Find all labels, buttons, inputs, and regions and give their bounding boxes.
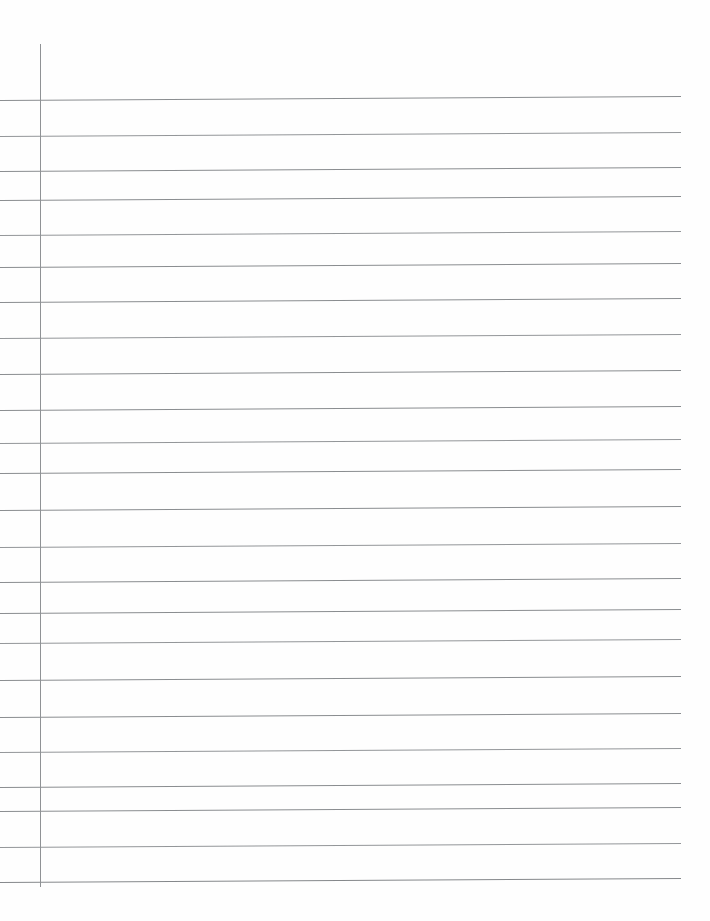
ruled-line xyxy=(0,406,681,411)
ruled-line xyxy=(0,370,681,375)
ruled-line xyxy=(0,609,681,614)
ruled-line xyxy=(0,263,681,268)
ruled-line-bottom xyxy=(0,878,681,883)
ruled-line xyxy=(0,231,681,236)
ruled-line xyxy=(0,639,681,644)
ruled-line xyxy=(0,843,681,848)
ruled-line xyxy=(0,298,681,303)
ruled-line xyxy=(0,469,681,474)
ruled-line xyxy=(0,783,681,788)
ruled-line xyxy=(0,676,681,681)
ruled-line xyxy=(0,506,681,511)
ruled-line xyxy=(0,96,681,101)
ruled-line xyxy=(0,167,681,172)
ruled-line xyxy=(0,578,681,583)
ruled-line xyxy=(0,132,681,137)
scanned-page: Blank ruled notebook page xyxy=(0,0,710,921)
ruled-line xyxy=(0,713,681,718)
ruled-lines-layer xyxy=(0,0,710,921)
left-margin-line xyxy=(40,44,41,887)
ruled-line xyxy=(0,439,681,444)
ruled-line xyxy=(0,807,681,812)
ruled-line xyxy=(0,748,681,753)
ruled-line xyxy=(0,543,681,548)
ruled-line xyxy=(0,334,681,339)
ruled-line xyxy=(0,196,681,201)
